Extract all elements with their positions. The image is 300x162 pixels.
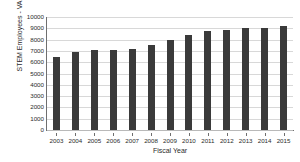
bar [242,28,249,130]
x-axis-tick-mark [113,133,114,136]
bar [223,30,230,130]
bar [129,49,136,130]
y-axis-tick-label: 8000 [8,37,44,43]
x-axis-tick-labels: 2003200420052006200720082009201020112012… [47,133,293,145]
x-axis-tick-mark [227,133,228,136]
x-axis-tick-mark [284,133,285,136]
bar-series [47,17,293,130]
x-axis-title: Fiscal Year [47,147,293,154]
plot-area [47,17,293,130]
bar [204,31,211,130]
x-axis-tick-mark [265,133,266,136]
y-axis-tick-label: 2000 [8,104,44,110]
y-axis-tick-label: 4000 [8,82,44,88]
bar [72,52,79,130]
bar [110,50,117,130]
x-axis-tick-label: 2015 [272,137,296,145]
bar-chart: STEM Employees - VA 01000200030004000500… [0,0,300,162]
x-axis-tick-mark [189,133,190,136]
x-axis-tick-mark [151,133,152,136]
x-axis-tick-mark [246,133,247,136]
y-axis-tick-label: 7000 [8,48,44,54]
y-axis-tick-label: 9000 [8,25,44,31]
bar [280,26,287,130]
x-axis-tick-mark [208,133,209,136]
bar [167,40,174,130]
y-axis-tick-label: 6000 [8,59,44,65]
y-axis-tick-label: 5000 [8,71,44,77]
y-axis-tick-label: 0 [8,127,44,133]
y-axis-tick-labels: 0100020003000400050006000700080009000100… [8,17,44,130]
y-axis-tick-label: 3000 [8,93,44,99]
x-axis-tick-mark [75,133,76,136]
x-axis-tick-mark [132,133,133,136]
y-axis-tick-label: 1000 [8,116,44,122]
bar [148,45,155,130]
gridline [47,130,293,131]
x-axis-tick-mark [170,133,171,136]
bar [53,57,60,130]
bar [91,50,98,130]
bar [185,35,192,130]
x-axis-tick-mark [94,133,95,136]
x-axis-tick-mark [56,133,57,136]
y-axis-tick-label: 10000 [8,14,44,20]
bar [261,28,268,130]
